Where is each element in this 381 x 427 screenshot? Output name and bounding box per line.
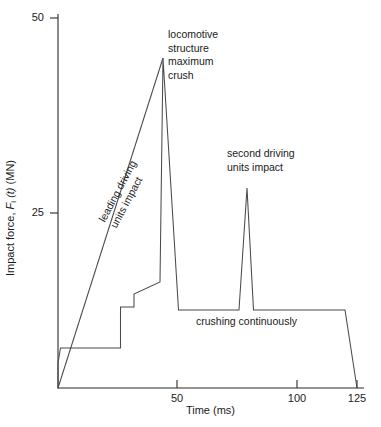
- x-tick-label-125: 125: [340, 392, 374, 404]
- annotation-crushing-continuously: crushing continuously: [196, 315, 297, 329]
- x-tick-label-50: 50: [160, 392, 194, 404]
- y-tick-label-50: 50: [18, 11, 44, 23]
- annotation-second-driving-units-impact: second driving units impact: [227, 147, 295, 174]
- x-axis-title: Time (ms): [0, 404, 381, 416]
- x-tick-label-100: 100: [280, 392, 314, 404]
- impact-force-trace: [58, 58, 357, 388]
- y-tick-label-25: 25: [18, 206, 44, 218]
- impact-force-chart: 50 25 50 100 125 Impact force, Fi (t) (M…: [0, 0, 381, 427]
- annotation-locomotive-maximum-crush: locomotive structure maximum crush: [168, 28, 218, 82]
